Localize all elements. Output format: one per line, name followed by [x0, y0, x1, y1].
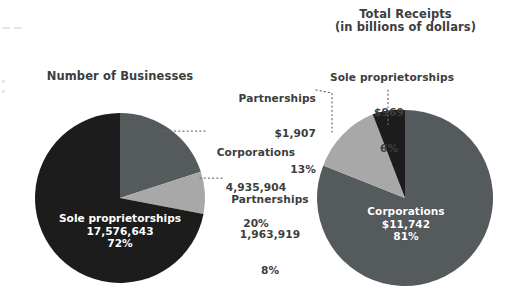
right-inside-corporations-value: $11,742 — [320, 218, 492, 231]
pie-chart-figure: Number of Businesses Corporations 4,935,… — [0, 0, 521, 308]
right-chart-title-line1: Total Receipts — [318, 8, 493, 21]
right-callout-sole-value: $969 — [330, 107, 448, 119]
left-callout-partnerships-value: 1,963,919 — [224, 229, 316, 241]
right-callout-partnerships-percent: 13% — [238, 164, 316, 176]
right-chart-title-line2: (in billions of dollars) — [318, 21, 493, 34]
left-inside-sole-label: Sole proprietorships — [30, 212, 210, 225]
right-callout-partnerships: Partnerships $1,907 13% — [238, 69, 316, 199]
right-inside-corporations-percent: 81% — [320, 230, 492, 243]
right-callout-sole-proprietorships: Sole proprietorships $969 6% — [330, 48, 448, 178]
right-inside-corporations: Corporations $11,742 81% — [320, 205, 492, 243]
right-callout-sole-label: Sole proprietorships — [330, 72, 448, 84]
left-pie-slices — [35, 113, 205, 283]
right-inside-corporations-label: Corporations — [320, 205, 492, 218]
right-callout-partnerships-label: Partnerships — [238, 93, 316, 105]
right-callout-partnerships-value: $1,907 — [238, 128, 316, 140]
left-callout-partnerships-percent: 8% — [224, 265, 316, 277]
left-inside-sole-proprietorships: Sole proprietorships 17,576,643 72% — [30, 212, 210, 250]
left-chart-title: Number of Businesses — [30, 70, 210, 83]
right-callout-sole-percent: 6% — [330, 143, 448, 155]
left-inside-sole-value: 17,576,643 — [30, 225, 210, 238]
left-inside-sole-percent: 72% — [30, 237, 210, 250]
